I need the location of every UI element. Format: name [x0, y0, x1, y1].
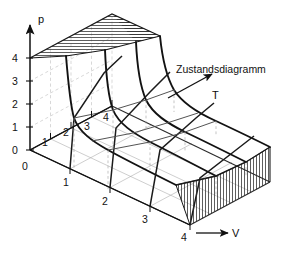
- p-origin-label: 0: [12, 144, 18, 156]
- v-axis-label: V: [232, 227, 240, 239]
- t-tick-1: 1: [42, 136, 48, 148]
- state-diagram-figure: p 1 2 3 4 0 T 0 1 2 3 4 V 1 2 3 4 Zustan…: [0, 0, 287, 254]
- p-axis-label: p: [38, 13, 44, 25]
- p-axis: [26, 25, 33, 150]
- p-tick-4: 4: [12, 52, 18, 64]
- t-tick-2: 2: [63, 126, 69, 138]
- ridge-hatched-region: [30, 14, 160, 58]
- pvt-surface-plot: p 1 2 3 4 0 T 0 1 2 3 4 V 1 2 3 4 Zustan…: [0, 0, 287, 254]
- zustandsdiagramm-annotation: Zustandsdiagramm: [176, 63, 266, 75]
- t-origin-label: 0: [22, 160, 28, 172]
- v-tick-2: 2: [102, 195, 108, 207]
- v-tick-4: 4: [181, 231, 187, 243]
- p-tick-2: 2: [12, 98, 18, 110]
- t-tick-4: 4: [103, 111, 109, 123]
- p-tick-1: 1: [12, 121, 18, 133]
- v-tick-1: 1: [63, 176, 69, 188]
- t-axis-label: T: [212, 89, 219, 101]
- v-tick-3: 3: [142, 213, 148, 225]
- t-tick-3: 3: [84, 120, 90, 132]
- p-tick-3: 3: [12, 75, 18, 87]
